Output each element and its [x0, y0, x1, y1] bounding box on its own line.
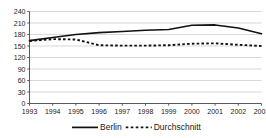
x-tick-label: 2002 — [231, 108, 247, 115]
x-tick-label: 1999 — [161, 108, 177, 115]
legend-label-berlin: Berlin — [100, 122, 122, 132]
chart-legend: BerlinDurchschnitt — [72, 122, 202, 132]
x-tick-label: 1995 — [68, 108, 84, 115]
x-tick-label: 1994 — [45, 108, 61, 115]
line-chart: 0306090120150180210240 19931994199519961… — [0, 0, 266, 138]
x-tick-label: 1997 — [115, 108, 131, 115]
y-tick-label: 30 — [18, 89, 26, 96]
legend-label-durchschnitt: Durchschnitt — [154, 122, 202, 132]
x-tick-labels: 1993199419951996199719981999200020012002… — [22, 104, 266, 115]
y-tick-label: 90 — [18, 66, 26, 73]
x-tick-label: 2000 — [184, 108, 200, 115]
chart-canvas: 0306090120150180210240 19931994199519961… — [0, 0, 266, 138]
y-tick-label: 210 — [14, 20, 26, 27]
y-tick-label: 180 — [14, 31, 26, 38]
series-line-durchschnitt — [30, 39, 262, 46]
series-line-berlin — [30, 25, 262, 41]
y-tick-label: 60 — [18, 77, 26, 84]
y-tick-labels: 0306090120150180210240 — [14, 8, 30, 107]
x-tick-label: 2003 — [254, 108, 266, 115]
series-group — [30, 25, 262, 46]
y-tick-label: 120 — [14, 54, 26, 61]
x-tick-label: 2001 — [207, 108, 223, 115]
y-tick-label: 150 — [14, 43, 26, 50]
x-tick-label: 1998 — [138, 108, 154, 115]
y-tick-label: 240 — [14, 8, 26, 15]
x-tick-label: 1993 — [22, 108, 38, 115]
x-tick-label: 1996 — [91, 108, 107, 115]
y-tick-label: 0 — [22, 100, 26, 107]
gridlines — [30, 12, 262, 93]
